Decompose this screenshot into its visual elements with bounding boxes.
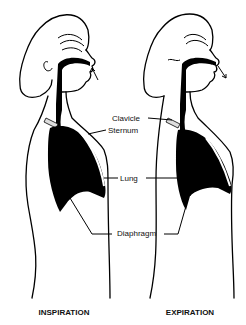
expiration-caption: EXPIRATION: [166, 308, 215, 317]
inspiration-airway: [56, 58, 90, 134]
inspiration-caption: INSPIRATION: [39, 308, 90, 317]
inspiration-head-outline: [20, 15, 89, 98]
expiration-head-outline: [144, 14, 213, 97]
inspiration-figure: [20, 15, 112, 298]
expiration-figure: [144, 14, 234, 298]
expiration-airway: [180, 58, 216, 134]
expiration-neck: [150, 96, 164, 298]
clavicle-label: Clavicle: [112, 114, 141, 123]
inspiration-neck: [26, 96, 48, 298]
diaphragm-label: Diaphragm: [117, 229, 156, 238]
expiration-face-profile: [186, 50, 219, 92]
lung-label: Lung: [120, 174, 138, 183]
sternum-leader-line: [88, 130, 106, 134]
inspiration-airflow-arrow-icon: [92, 68, 98, 80]
respiration-diagram: Clavicle Sternum Lung Diaphragm INSPIRAT…: [0, 0, 246, 325]
inspiration-lung: [48, 126, 106, 212]
sternum-label: Sternum: [108, 126, 139, 135]
